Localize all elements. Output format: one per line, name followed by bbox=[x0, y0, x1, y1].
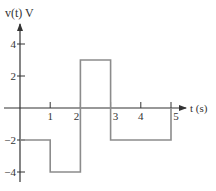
x-tick-label: 1 bbox=[47, 110, 53, 122]
y-tick-label: −2 bbox=[4, 134, 16, 146]
y-axis-title: v(t) V bbox=[5, 6, 34, 20]
waveform-chart: v(t) V 42−2−4 12345 t (s) bbox=[0, 0, 216, 191]
x-tick-label: 4 bbox=[138, 110, 144, 122]
x-tick-label: 5 bbox=[173, 110, 179, 122]
y-tick-label: −4 bbox=[4, 166, 16, 178]
x-ticks: 12345 bbox=[47, 102, 179, 122]
waveform-line bbox=[20, 60, 171, 172]
x-tick-label: 2 bbox=[74, 110, 80, 122]
y-tick-label: 4 bbox=[11, 38, 17, 50]
x-tick-label: 3 bbox=[113, 110, 119, 122]
x-axis-label: t (s) bbox=[190, 102, 208, 115]
y-tick-label: 2 bbox=[11, 70, 17, 82]
